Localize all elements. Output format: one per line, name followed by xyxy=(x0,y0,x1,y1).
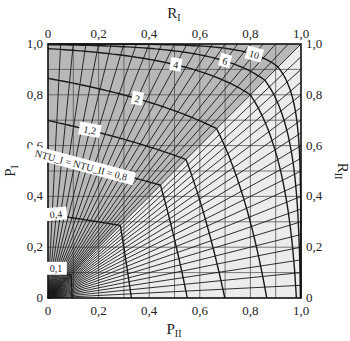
y-right-tick: 0,8 xyxy=(306,87,322,102)
y-right-tick: 1,0 xyxy=(306,36,322,51)
x-bottom-axis-label: PII xyxy=(166,321,181,339)
x-bottom-tick: 0,2 xyxy=(90,303,106,318)
y-right-tick: 0,6 xyxy=(306,138,323,153)
ntu-label-text: 1,2 xyxy=(83,124,97,137)
x-top-tick: 0 xyxy=(45,26,52,41)
y-left-axis-label: PI xyxy=(2,165,20,177)
ntu-label: 4 xyxy=(169,57,182,72)
x-top-axis-label: RI xyxy=(167,5,180,23)
ntu-label-text: 0,4 xyxy=(49,208,62,220)
y-left-tick: 0 xyxy=(37,290,44,305)
ntu-label: 0,4 xyxy=(45,206,68,221)
x-top-tick: 0,4 xyxy=(141,26,158,41)
y-right-axis-label: RII xyxy=(333,163,350,180)
x-top-tick: 0,2 xyxy=(90,26,106,41)
x-bottom-tick: 0,4 xyxy=(141,303,158,318)
x-bottom-tick: 0,6 xyxy=(192,303,209,318)
y-left-tick: 0,2 xyxy=(27,239,43,254)
y-left-tick: 0,8 xyxy=(27,87,43,102)
x-top-tick: 0,6 xyxy=(192,26,209,41)
y-left-tick: 0,4 xyxy=(27,188,44,203)
ntu-label: 0,1 xyxy=(45,262,67,275)
x-bottom-tick: 0 xyxy=(45,303,52,318)
y-right-tick: 0,2 xyxy=(306,239,322,254)
x-top-tick: 0,8 xyxy=(242,26,258,41)
y-right-tick: 0 xyxy=(306,290,313,305)
x-bottom-tick: 0,8 xyxy=(242,303,258,318)
y-left-tick: 1,0 xyxy=(27,36,43,51)
pr-diagram: 00,20,40,60,81,000,20,40,60,81,000,20,40… xyxy=(0,0,350,341)
x-bottom-tick: 1,0 xyxy=(293,303,309,318)
ntu-label-text: 0,1 xyxy=(50,263,63,274)
ntu-label: 2 xyxy=(131,91,144,106)
y-right-tick: 0,4 xyxy=(306,188,323,203)
